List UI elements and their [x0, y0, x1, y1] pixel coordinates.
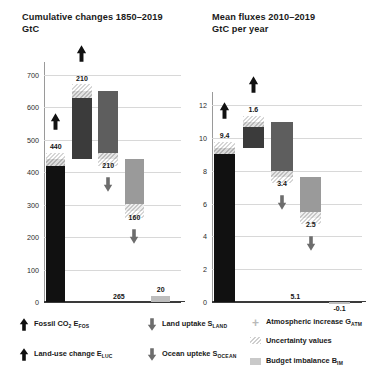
y-axis-tick-label: 600: [27, 103, 39, 112]
bar-fossil-co2: [214, 148, 235, 302]
budget-imbalance-label: -0.1: [325, 305, 355, 312]
budget-imbalance-label: 20: [146, 286, 176, 293]
legend-item[interactable]: Land uptake SLAND: [146, 318, 227, 331]
arrow-down-icon: [146, 318, 157, 331]
gridline: [44, 302, 181, 303]
bar-value-label: 1.6: [238, 106, 268, 113]
y-axis-tick-label: 200: [27, 233, 39, 242]
arrow-down-icon: [146, 348, 157, 361]
uncertainty-band: [243, 116, 264, 128]
legend-item[interactable]: Land-use change ELUC: [18, 348, 113, 361]
legend-item-label: Budget imbalance BIM: [266, 356, 343, 366]
y-axis-tick-label: 0: [35, 298, 39, 307]
chart-legend: Fossil CO2 EFOSLand-use change ELUCLand …: [0, 316, 387, 380]
chart-title-cumulative: Cumulative changes 1850–2019 GtC: [22, 12, 163, 35]
plus-icon: +: [250, 316, 261, 329]
y-axis-line-right: [212, 92, 213, 302]
y-axis-tick-label: 10: [199, 133, 207, 142]
legend-item-label: Ocean upteke SOCEAN: [162, 349, 237, 359]
legend-item-label: Land-use change ELUC: [34, 349, 113, 359]
legend-item-label: Uncertainty values: [266, 336, 332, 345]
bar-value-label: 160: [119, 214, 149, 221]
chart-panel-cumulative: Cumulative changes 1850–2019 GtC 0100200…: [0, 0, 194, 312]
y-axis-tick-label: 100: [27, 265, 39, 274]
arrow-down-icon: [103, 177, 113, 192]
plot-area-fluxes: 0246810129.41.63.42.55.1-0.1: [212, 92, 362, 302]
ocean-cumulative-total-label: 5.1: [276, 293, 300, 300]
gray-swatch-icon: [250, 358, 261, 365]
y-axis-tick-label: 400: [27, 168, 39, 177]
hatch-swatch-icon: [250, 337, 261, 344]
legend-item-label: Atmospheric increase GATM: [266, 317, 362, 327]
y-axis-tick-label: 12: [199, 101, 207, 110]
arrow-down-icon: [306, 236, 316, 251]
y-axis-tick-label: 300: [27, 200, 39, 209]
plot-area-cumulative: 010020030040050060070044021021016026520: [44, 62, 181, 302]
bar-land-use-change: [72, 91, 91, 159]
bar-value-label: 210: [67, 75, 97, 82]
y-axis-tick-label: 6: [203, 199, 207, 208]
y-axis-tick-label: 4: [203, 232, 207, 241]
arrow-down-icon: [129, 229, 139, 244]
chart-panel-fluxes: Mean fluxes 2010–2019 GtC per year 02468…: [194, 0, 387, 312]
bar-ocean-uptake: [125, 159, 144, 211]
bar-budget-imbalance: [151, 296, 170, 302]
uncertainty-band: [214, 142, 235, 154]
bar-value-label: 9.4: [210, 132, 240, 139]
arrow-up-icon: [18, 318, 29, 331]
bar-value-label: 210: [93, 162, 123, 169]
legend-item-label: Land uptake SLAND: [162, 319, 227, 329]
arrow-up-icon: [76, 45, 87, 62]
y-axis-tick-label: 500: [27, 135, 39, 144]
legend-item[interactable]: +Atmospheric increase GATM: [250, 316, 362, 329]
arrow-up-icon: [50, 113, 61, 130]
arrow-down-icon: [277, 195, 287, 210]
arrow-up-icon: [248, 76, 259, 93]
uncertainty-band: [72, 84, 91, 97]
bar-value-label: 440: [41, 143, 71, 150]
legend-item[interactable]: Uncertainty values: [250, 336, 332, 345]
bar-land-uptake: [271, 122, 292, 178]
arrow-up-icon: [219, 102, 230, 119]
y-axis-tick-label: 2: [203, 265, 207, 274]
uncertainty-band: [46, 153, 65, 166]
legend-item[interactable]: Ocean upteke SOCEAN: [146, 348, 237, 361]
ocean-cumulative-total-label: 265: [101, 293, 125, 300]
gridline: [44, 75, 181, 76]
bar-fossil-co2: [46, 159, 65, 302]
bar-value-label: 3.4: [267, 180, 297, 187]
y-axis-tick-label: 700: [27, 70, 39, 79]
y-axis-tick-label: 8: [203, 166, 207, 175]
legend-item[interactable]: Fossil CO2 EFOS: [18, 318, 89, 331]
bar-value-label: 2.5: [296, 221, 326, 228]
legend-item-label: Fossil CO2 EFOS: [34, 319, 89, 329]
bar-budget-imbalance: [329, 302, 350, 304]
y-axis-tick-label: 0: [203, 298, 207, 307]
arrow-up-icon: [18, 348, 29, 361]
legend-item[interactable]: Budget imbalance BIM: [250, 356, 343, 366]
y-axis-line-left: [44, 62, 45, 302]
gridline: [212, 105, 362, 106]
bar-land-uptake: [98, 91, 117, 159]
chart-title-fluxes: Mean fluxes 2010–2019 GtC per year: [212, 12, 315, 35]
